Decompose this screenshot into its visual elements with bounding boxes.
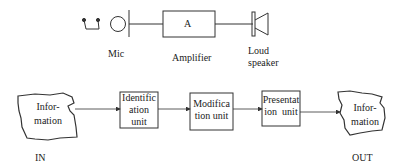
modification-line1: Modifica xyxy=(190,98,233,110)
mic-label: Mic xyxy=(108,48,124,59)
identification-line3: unit xyxy=(120,116,158,128)
microphone-icon xyxy=(111,10,130,37)
amplifier-symbol-label: A xyxy=(184,18,191,29)
identification-unit-text: Identific ation unit xyxy=(120,92,158,128)
identification-line1: Identific xyxy=(120,92,158,104)
output-info-text: Infor- mation xyxy=(347,102,383,128)
mic-terminals-icon xyxy=(82,18,99,29)
modification-unit-text: Modifica tion unit xyxy=(190,98,233,122)
loudspeaker-icon xyxy=(252,12,268,36)
amplifier-label: Amplifier xyxy=(172,52,211,63)
output-info-line2: mation xyxy=(347,116,383,128)
output-info-line1: Infor- xyxy=(347,102,383,114)
speaker-label-line1: Loud xyxy=(248,45,269,56)
input-info-text: Infor- mation xyxy=(30,101,66,127)
input-info-line1: Infor- xyxy=(30,101,66,113)
presentation-unit-text: Presentat ion unit xyxy=(262,94,300,118)
diagram-canvas xyxy=(0,0,395,164)
modification-line2: tion unit xyxy=(190,110,233,122)
presentation-line2: ion unit xyxy=(262,106,300,118)
out-caption: OUT xyxy=(352,152,373,163)
presentation-line1: Presentat xyxy=(262,94,300,106)
speaker-label-line2: speaker xyxy=(248,57,279,68)
input-info-line2: mation xyxy=(30,115,66,127)
in-caption: IN xyxy=(35,152,46,163)
identification-line2: ation xyxy=(120,104,158,116)
